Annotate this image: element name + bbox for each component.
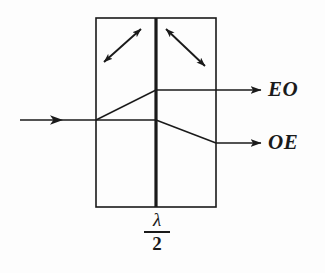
optics-diagram-figure: EO OE λ 2 <box>0 0 325 273</box>
half-wave-plate-label: λ 2 <box>140 210 174 254</box>
plate-label-numerator: λ <box>140 210 174 230</box>
output-label-eo: EO <box>268 77 298 102</box>
optic-axis-arrow-left <box>104 29 141 62</box>
ray-segment-upper-slanted <box>96 90 156 120</box>
plate-label-denominator: 2 <box>140 234 174 254</box>
output-label-oe: OE <box>268 130 298 155</box>
ray-segment-lower-slanted <box>156 120 216 143</box>
optic-axis-arrow-right <box>166 29 205 66</box>
